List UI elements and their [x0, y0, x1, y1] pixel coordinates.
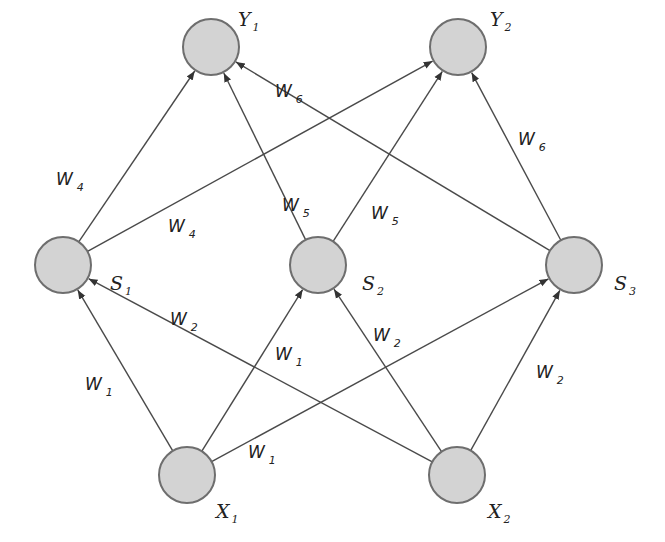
- neural-network-diagram: Y1Y2S1S2S3X1X2 W1W1W1W2W2W2W4W4W5W5W6W6: [0, 0, 665, 542]
- weight-label-w2: W2: [170, 309, 198, 334]
- node-y2: [430, 19, 486, 75]
- node-label-s2: S2: [362, 272, 384, 298]
- node-x1: [159, 447, 215, 503]
- node-label-s3: S3: [614, 272, 636, 298]
- node-s3: [546, 237, 602, 293]
- node-label-s1: S1: [110, 272, 132, 298]
- weight-label-w4: W4: [168, 216, 196, 241]
- weight-label-w1: W1: [85, 374, 113, 399]
- weight-label-w4: W4: [56, 169, 84, 194]
- edge-x1-to-s1: [78, 290, 173, 451]
- nodes-group: Y1Y2S1S2S3X1X2: [35, 8, 636, 526]
- edge-s3-to-y2: [472, 73, 561, 241]
- node-label-y1: Y1: [238, 8, 260, 34]
- edge-x2-to-s2: [334, 289, 442, 451]
- node-label-x2: X2: [486, 500, 511, 526]
- weight-label-w6: W6: [518, 129, 546, 154]
- weight-label-w2: W2: [536, 362, 564, 387]
- node-s2: [290, 237, 346, 293]
- weight-label-w1: W1: [248, 442, 276, 467]
- node-s1: [35, 237, 91, 293]
- weight-label-w6: W6: [275, 81, 303, 106]
- edge-x1-to-s2: [202, 290, 303, 452]
- node-x2: [429, 447, 485, 503]
- node-label-x1: X1: [214, 500, 239, 526]
- weight-label-w1: W1: [275, 344, 303, 369]
- node-label-y2: Y2: [490, 8, 512, 34]
- weight-label-w5: W5: [282, 195, 310, 220]
- weight-label-w2: W2: [373, 325, 401, 350]
- node-y1: [183, 19, 239, 75]
- weight-label-w5: W5: [371, 203, 399, 228]
